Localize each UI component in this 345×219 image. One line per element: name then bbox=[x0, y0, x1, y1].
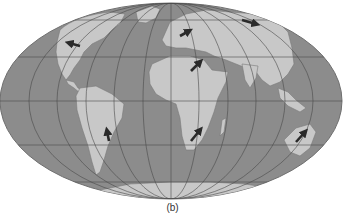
world-map bbox=[0, 0, 345, 205]
figure-caption: (b) bbox=[0, 202, 345, 213]
